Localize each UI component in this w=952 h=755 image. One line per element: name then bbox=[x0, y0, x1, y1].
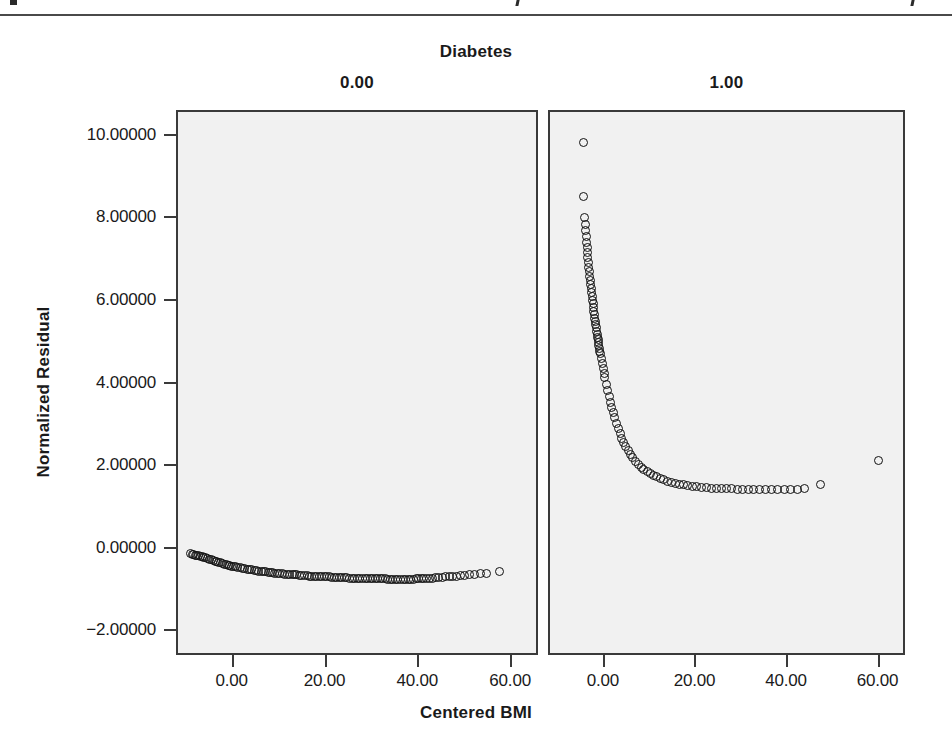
header-divider-rule bbox=[0, 14, 952, 16]
data-point bbox=[495, 567, 504, 576]
x-tick-label: 0.00 bbox=[187, 671, 277, 691]
x-tick-label: 40.00 bbox=[372, 671, 462, 691]
x-tick-label: 0.00 bbox=[558, 671, 648, 691]
x-tick-label: 60.00 bbox=[465, 671, 555, 691]
facet-variable-title: Diabetes bbox=[0, 42, 952, 62]
data-point bbox=[800, 484, 809, 493]
data-point bbox=[816, 480, 825, 489]
y-tick-mark bbox=[164, 629, 176, 631]
y-tick-label: 10.00000 bbox=[16, 125, 156, 145]
x-tick-label: 60.00 bbox=[833, 671, 923, 691]
x-tick-mark bbox=[325, 655, 327, 667]
x-tick-label: 20.00 bbox=[280, 671, 370, 691]
panel-header-diabetes-1: 1.00 bbox=[548, 73, 905, 93]
data-point bbox=[874, 456, 883, 465]
cropped-text-fragment-right bbox=[910, 0, 914, 6]
cropped-text-fragment-mid bbox=[515, 0, 519, 6]
x-tick-label: 40.00 bbox=[741, 671, 831, 691]
x-tick-mark bbox=[510, 655, 512, 667]
y-axis-title: Normalized Residual bbox=[34, 242, 54, 542]
y-tick-label: 8.00000 bbox=[16, 207, 156, 227]
y-tick-mark bbox=[164, 464, 176, 466]
y-tick-mark bbox=[164, 216, 176, 218]
x-tick-mark bbox=[694, 655, 696, 667]
x-tick-label: 20.00 bbox=[649, 671, 739, 691]
x-tick-mark bbox=[232, 655, 234, 667]
panel-header-diabetes-0: 0.00 bbox=[176, 73, 538, 93]
x-tick-mark bbox=[417, 655, 419, 667]
scatter-panel-diabetes-0 bbox=[176, 110, 538, 655]
data-point bbox=[482, 569, 491, 578]
y-tick-label: −2.00000 bbox=[16, 620, 156, 640]
data-point bbox=[579, 192, 588, 201]
x-tick-mark bbox=[786, 655, 788, 667]
x-tick-mark bbox=[878, 655, 880, 667]
scatter-panel-diabetes-1 bbox=[548, 110, 905, 655]
cropped-text-fragment-left bbox=[10, 0, 17, 5]
y-tick-mark bbox=[164, 299, 176, 301]
data-point bbox=[579, 138, 588, 147]
figure-canvas: Diabetes 0.00 1.00 −2.000000.000002.0000… bbox=[0, 0, 952, 755]
y-tick-mark bbox=[164, 134, 176, 136]
x-axis-title: Centered BMI bbox=[0, 703, 952, 723]
y-tick-mark bbox=[164, 547, 176, 549]
x-tick-mark bbox=[603, 655, 605, 667]
y-tick-mark bbox=[164, 382, 176, 384]
